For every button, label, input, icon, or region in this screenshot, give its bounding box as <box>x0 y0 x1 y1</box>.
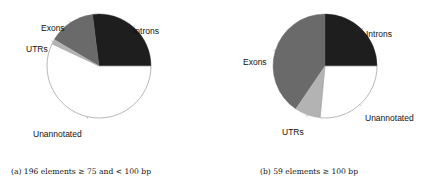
slice-label-unannotated: Unannotated <box>365 113 414 123</box>
pie-slice-introns <box>92 14 151 66</box>
pie-slice-introns <box>325 14 377 66</box>
slice-label-exons: Exons <box>41 23 65 33</box>
label-tick-exons <box>273 50 275 51</box>
slice-label-introns: Introns <box>366 29 392 39</box>
pie-chart-a: IntronsExonsUTRsUnannotated (a) 196 elem… <box>0 0 218 190</box>
pie-b-svg: IntronsExonsUTRsUnannotated <box>218 0 436 150</box>
slice-label-unannotated: Unannotated <box>33 129 82 139</box>
caption-b: (b) 59 elements ≥ 100 bp <box>260 167 358 176</box>
label-tick-unannotated <box>360 104 361 105</box>
slice-label-utrs: UTRs <box>282 127 304 137</box>
pie-a-svg: IntronsExonsUTRsUnannotated <box>0 0 218 150</box>
slice-label-introns: Introns <box>133 26 159 36</box>
label-tick-exons <box>69 21 70 23</box>
slice-label-utrs: UTRs <box>26 44 48 54</box>
label-tick-utrs <box>307 115 308 117</box>
pie-chart-b: IntronsExonsUTRsUnannotated (b) 59 eleme… <box>218 0 436 190</box>
caption-a: (a) 196 elements ≥ 75 and < 100 bp <box>11 167 151 176</box>
label-tick-utrs <box>51 41 53 42</box>
slice-label-exons: Exons <box>243 57 267 67</box>
pie-slice-unannotated <box>320 66 377 118</box>
label-tick-introns <box>362 28 363 29</box>
